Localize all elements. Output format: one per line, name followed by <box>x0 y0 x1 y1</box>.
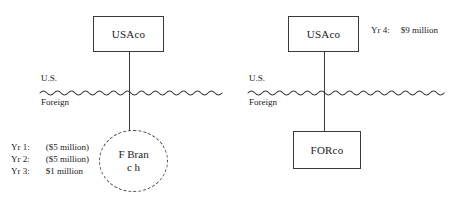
annotation-amount: $1 million <box>46 167 89 179</box>
entity-circle-foreign-branch: F Branc h <box>99 130 168 192</box>
annotation-row: Yr 4: $9 million <box>371 26 438 38</box>
entity-label-usaco-right: USAco <box>307 28 340 40</box>
border-wave-right <box>248 91 444 95</box>
border-label-us-left: U.S. <box>41 74 57 83</box>
entity-label-forco: FORco <box>311 144 344 156</box>
entity-box-usaco-right: USAco <box>288 16 359 52</box>
diagram-canvas: USAco U.S. Foreign F Branc h Yr 1: ($5 m… <box>0 0 449 197</box>
annotation-amount: $9 million <box>401 26 438 38</box>
annotation-year: Yr 3: <box>11 167 46 179</box>
entity-label-usaco-left: USAco <box>112 28 145 40</box>
border-label-foreign-right: Foreign <box>249 98 277 107</box>
annotation-year: Yr 4: <box>371 26 401 38</box>
entity-box-usaco-left: USAco <box>93 16 164 52</box>
annotation-table-right: Yr 4: $9 million <box>371 26 438 38</box>
border-label-foreign-left: Foreign <box>41 98 69 107</box>
annotation-row: Yr 3: $1 million <box>11 167 89 179</box>
border-wave-left <box>40 91 222 95</box>
annotation-table-left: Yr 1: ($5 million) Yr 2: ($5 million) Yr… <box>11 143 89 179</box>
border-label-us-right: U.S. <box>249 74 265 83</box>
entity-box-forco: FORco <box>293 131 361 169</box>
entity-label-foreign-branch: F Branc h <box>118 148 150 173</box>
